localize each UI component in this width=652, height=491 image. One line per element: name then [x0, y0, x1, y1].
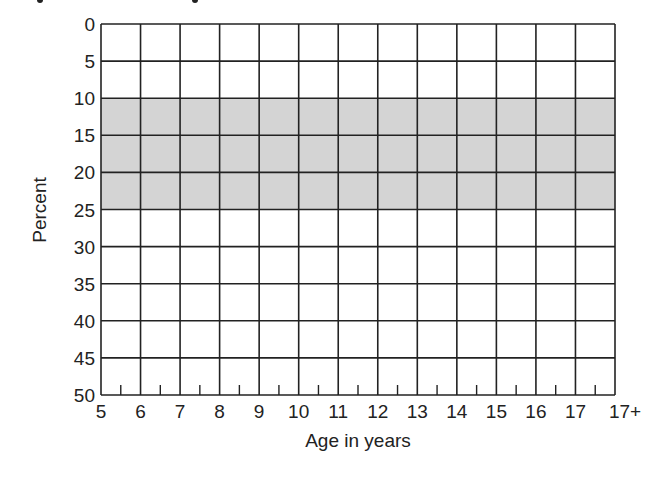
x-tick-label: 13 — [407, 401, 428, 422]
percent-by-age-grid-chart: 05101520253035404550 5678910111213141516… — [0, 0, 652, 491]
shaded-band — [101, 98, 615, 209]
y-tick-label: 20 — [74, 162, 95, 183]
y-tick-label: 30 — [74, 237, 95, 258]
x-tick-label: 17+ — [609, 401, 641, 422]
x-tick-label: 14 — [446, 401, 468, 422]
y-tick-label: 5 — [84, 51, 95, 72]
y-tick-label: 35 — [74, 274, 95, 295]
x-tick-label: 9 — [254, 401, 265, 422]
x-tick-label: 5 — [96, 401, 107, 422]
y-axis-tick-labels: 05101520253035404550 — [74, 14, 95, 406]
cropped-title — [37, 0, 198, 3]
y-tick-label: 40 — [74, 311, 95, 332]
x-tick-label: 17 — [565, 401, 586, 422]
x-axis-tick-labels: 56789101112131415161717+ — [96, 401, 641, 422]
y-tick-label: 10 — [74, 88, 95, 109]
x-axis-title: Age in years — [305, 430, 411, 451]
grid-lines — [101, 24, 615, 395]
x-tick-label: 6 — [135, 401, 146, 422]
x-tick-label: 7 — [175, 401, 186, 422]
y-tick-label: 50 — [74, 385, 95, 406]
band-fill — [101, 98, 615, 209]
x-tick-label: 16 — [525, 401, 546, 422]
x-tick-label: 11 — [328, 401, 348, 422]
y-tick-label: 15 — [74, 125, 95, 146]
x-tick-label: 12 — [367, 401, 388, 422]
x-axis-minor-ticks — [121, 385, 595, 395]
x-tick-label: 8 — [214, 401, 225, 422]
y-tick-label: 0 — [84, 14, 95, 35]
x-tick-label: 15 — [486, 401, 507, 422]
x-tick-label: 10 — [288, 401, 309, 422]
y-axis-title: Percent — [29, 177, 50, 243]
y-tick-label: 45 — [74, 348, 95, 369]
y-tick-label: 25 — [74, 200, 95, 221]
